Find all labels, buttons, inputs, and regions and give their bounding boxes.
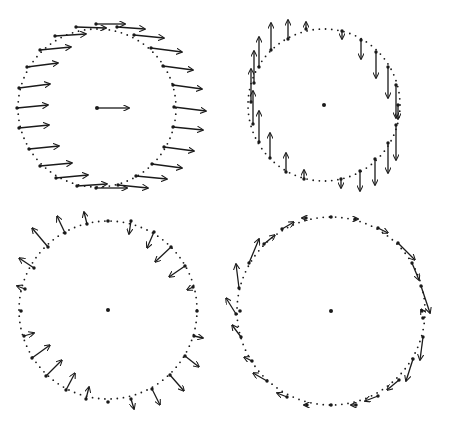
vector-arrow xyxy=(410,261,419,280)
vector-arrow xyxy=(147,230,156,248)
center-point xyxy=(106,308,110,312)
vector-arrow xyxy=(353,217,358,220)
vector-arrow xyxy=(30,345,50,360)
vector-arrow xyxy=(19,258,36,270)
sample-point xyxy=(106,400,110,404)
vector-arrow xyxy=(183,354,199,367)
vector-arrow xyxy=(74,25,106,28)
vector-arrow xyxy=(232,325,243,339)
vector-arrow xyxy=(302,216,308,219)
panel-bottom-left xyxy=(17,212,203,409)
panel-top-right xyxy=(247,20,401,191)
vector-arrow xyxy=(387,378,401,390)
vector-arrow xyxy=(132,33,164,38)
vector-arrow xyxy=(57,216,67,235)
vector-arrow xyxy=(340,29,343,39)
vector-arrow xyxy=(284,153,287,174)
vector-arrow xyxy=(351,403,358,406)
vector-arrow xyxy=(94,22,125,25)
sample-point xyxy=(195,309,199,313)
vector-arrow xyxy=(304,22,307,31)
vector-arrow xyxy=(252,51,255,85)
sample-point xyxy=(238,309,242,313)
vector-arrow xyxy=(84,387,89,401)
vector-arrow xyxy=(406,357,415,381)
vector-arrow xyxy=(269,23,272,52)
vector-arrow xyxy=(244,357,254,363)
vector-arrow xyxy=(134,174,167,179)
vector-arrow xyxy=(192,334,203,338)
vector-arrow xyxy=(386,141,389,173)
vector-arrow xyxy=(386,65,389,98)
vector-arrow xyxy=(226,298,238,316)
vector-arrow xyxy=(249,69,252,104)
vector-arrow xyxy=(25,63,58,69)
vector-arrow xyxy=(161,64,193,70)
vector-arrow xyxy=(420,309,423,313)
panel-top-left xyxy=(15,22,206,189)
vector-arrow xyxy=(253,373,269,383)
vector-arrow xyxy=(187,285,195,290)
sample-point xyxy=(421,316,425,320)
vector-arrow xyxy=(396,241,415,260)
sample-point xyxy=(19,309,23,313)
vector-arrow xyxy=(171,83,202,89)
vector-arrow xyxy=(304,403,309,406)
vector-arrow xyxy=(339,177,342,188)
vector-arrow xyxy=(129,397,134,409)
vector-arrow xyxy=(155,245,173,262)
panel-bottom-right xyxy=(226,215,430,407)
vector-arrow xyxy=(236,264,241,290)
vector-arrow xyxy=(247,239,259,265)
vector-arrow xyxy=(15,105,48,110)
vector-arrow xyxy=(365,394,380,401)
vector-arrow xyxy=(115,25,145,29)
vector-arrow xyxy=(17,84,50,90)
sample-point xyxy=(329,403,333,407)
sample-point xyxy=(329,215,333,219)
vector-field-figure xyxy=(0,0,453,425)
vector-arrow xyxy=(268,133,271,160)
vector-arrow xyxy=(150,387,160,405)
vector-arrow xyxy=(257,111,260,144)
vector-arrow xyxy=(394,123,397,160)
vector-arrow xyxy=(22,333,34,338)
vector-arrow xyxy=(27,146,59,151)
vector-arrow xyxy=(169,264,187,277)
vector-arrow xyxy=(32,228,50,249)
vector-arrow xyxy=(394,83,397,118)
vector-arrow xyxy=(150,162,182,168)
sample-point xyxy=(106,219,110,223)
vector-arrow xyxy=(359,38,362,59)
vector-arrow xyxy=(53,34,86,38)
vector-arrow xyxy=(251,91,254,126)
center-point xyxy=(322,103,326,107)
vector-arrow xyxy=(84,212,89,226)
vector-arrow xyxy=(38,163,72,168)
vector-arrow xyxy=(280,222,294,231)
vector-arrow xyxy=(38,47,71,52)
vector-arrow xyxy=(302,170,305,181)
vector-arrow xyxy=(172,105,206,111)
vector-arrow xyxy=(262,235,275,246)
vector-arrow xyxy=(420,335,425,360)
vector-arrow xyxy=(129,219,133,234)
vector-arrow xyxy=(17,286,27,291)
vector-arrow xyxy=(419,284,430,313)
vector-arrow xyxy=(162,145,194,151)
vector-arrow xyxy=(373,157,376,185)
vector-arrow xyxy=(257,37,260,69)
vector-arrow xyxy=(358,169,361,191)
vector-arrow xyxy=(64,373,75,392)
vector-arrow xyxy=(54,175,88,180)
vector-arrow xyxy=(17,125,49,130)
vector-arrow xyxy=(171,125,203,130)
vector-arrow xyxy=(116,183,148,188)
vector-arrow xyxy=(149,46,182,52)
vector-arrow xyxy=(94,186,127,189)
vector-arrow xyxy=(374,50,377,78)
center-point xyxy=(329,309,333,313)
vector-arrow xyxy=(44,360,62,378)
vector-arrow xyxy=(168,373,184,391)
